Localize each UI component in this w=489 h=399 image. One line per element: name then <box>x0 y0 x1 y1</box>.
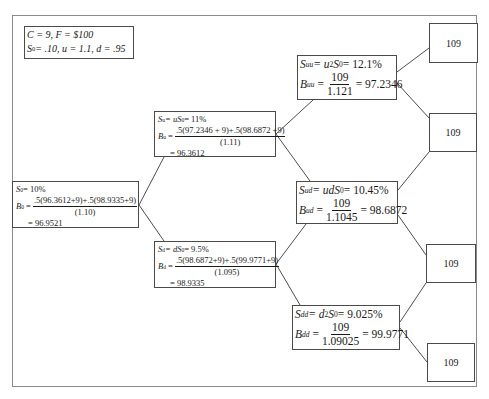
node-suu: Suu = u2S0 = 12.1% Buu = 109 1.121 = 97.… <box>297 55 397 100</box>
edge-sud-leaf3 <box>398 215 426 255</box>
node-sdd-rate: Sdd = d2S0 = 9.025% <box>295 308 397 321</box>
node-s0-result: = 96.9521 <box>16 218 135 229</box>
node-suu-rate: Suu = u2S0 = 12.1% <box>300 58 394 71</box>
node-sud-fraction: 109 1.1045 <box>325 197 359 224</box>
node-sd: Sd = dS0 = 9.5% Bd = .5(98.6872+9)+.5(99… <box>154 241 276 288</box>
node-su: Su = uS0 = 11% Bu = .5(97.2346 + 9)+.5(9… <box>154 111 276 157</box>
node-sdd-price: Bdd = 109 1.09025 = 99.9771 <box>295 321 397 348</box>
edge-s0-su <box>139 157 164 205</box>
leaf-uuu: 109 <box>429 23 478 63</box>
node-su-price: Bu = .5(97.2346 + 9)+.5(98.6872 +9) (1.1… <box>158 125 272 148</box>
edge-sud-leaf2 <box>398 152 429 190</box>
edge-sd-sdd <box>276 264 300 305</box>
node-sd-result: = 98.9335 <box>158 278 272 289</box>
node-su-fraction: .5(97.2346 + 9)+.5(98.6872 +9) (1.11) <box>175 125 286 148</box>
edge-suu-leaf1 <box>397 48 429 72</box>
node-s0-fraction: .5(96.3612+9)+.5(98.9335+9) (1.10) <box>33 195 137 218</box>
leaf-uud: 109 <box>429 113 477 152</box>
node-s0-price: B0 = .5(96.3612+9)+.5(98.9335+9) (1.10) <box>16 195 135 218</box>
edge-s0-sd <box>139 205 164 241</box>
node-su-rate: Su = uS0 = 11% <box>158 114 272 125</box>
node-sdd: Sdd = d2S0 = 9.025% Bdd = 109 1.09025 = … <box>292 305 400 350</box>
node-suu-fraction: 109 1.121 <box>326 71 354 98</box>
node-sdd-fraction: 109 1.09025 <box>321 321 360 348</box>
node-sd-fraction: .5(98.6872+9)+.5(99.9771+9) (1.095) <box>175 255 279 278</box>
params-line-1: C = 9, F = $100 <box>27 28 131 42</box>
params-line-2: S0 = .10, u = 1.1, d = .95 <box>27 42 131 56</box>
node-su-result: = 96.3612 <box>158 148 272 159</box>
node-sud: Sud = udS0 = 10.45% Bud = 109 1.1045 = 9… <box>296 181 398 224</box>
node-sd-rate: Sd = dS0 = 9.5% <box>158 244 272 255</box>
node-sud-rate: Sud = udS0 = 10.45% <box>299 184 395 197</box>
parameters-box: C = 9, F = $100 S0 = .10, u = 1.1, d = .… <box>24 26 134 59</box>
node-sud-price: Bud = 109 1.1045 = 98.6872 <box>299 197 395 224</box>
node-sd-price: Bd = .5(98.6872+9)+.5(99.9771+9) (1.095) <box>158 255 272 278</box>
node-s0: S0 = 10% B0 = .5(96.3612+9)+.5(98.9335+9… <box>12 181 139 228</box>
edge-sd-sud <box>276 224 306 264</box>
leaf-udd: 109 <box>426 244 476 283</box>
node-s0-rate: S0 = 10% <box>16 184 135 195</box>
leaf-ddd: 109 <box>427 343 475 382</box>
edge-sdd-leaf3 <box>400 283 426 322</box>
node-suu-price: Buu = 109 1.121 = 97.2346 <box>300 71 394 98</box>
